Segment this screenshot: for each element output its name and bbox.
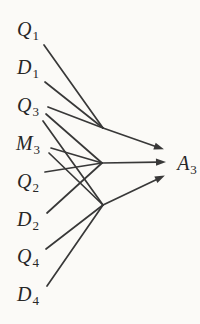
node-subscript-A3: 3 [190, 162, 197, 177]
node-letter-D2: D [17, 208, 31, 230]
arrowhead-icon-hub-top-to-A3 [153, 143, 164, 150]
node-label-Q1: Q1 [17, 19, 39, 39]
node-subscript-M3: 3 [34, 142, 41, 157]
arrowhead-icon-hub-middle-to-A3 [156, 159, 166, 166]
node-letter-D1: D [17, 56, 31, 78]
node-label-D1: D1 [17, 57, 39, 77]
edge-Q1-hub-top [44, 45, 103, 128]
node-letter-Q3: Q [17, 94, 31, 116]
node-label-M3: M3 [16, 133, 40, 153]
arrow-shaft-hub-top-to-A3 [103, 128, 156, 147]
node-label-Q3: Q3 [17, 95, 39, 115]
edge-Q4-hub-bottom [46, 205, 103, 249]
node-letter-A3: A [177, 152, 189, 174]
arrow-shaft-hub-bottom-to-A3 [103, 179, 158, 205]
node-letter-Q2: Q [17, 170, 31, 192]
node-letter-Q4: Q [17, 245, 31, 267]
node-subscript-D2: 2 [32, 218, 39, 233]
edge-Q3-hub-bottom [43, 121, 103, 205]
node-label-D2: D2 [17, 209, 39, 229]
node-subscript-D4: 4 [32, 293, 39, 308]
node-label-Q4: Q4 [17, 246, 39, 266]
node-letter-M3: M [16, 132, 33, 154]
node-subscript-Q2: 2 [32, 180, 39, 195]
node-subscript-Q1: 1 [32, 28, 39, 43]
node-letter-D4: D [17, 283, 31, 305]
node-label-D4: D4 [17, 284, 39, 304]
node-label-A3: A3 [177, 153, 197, 173]
edges-svg [0, 0, 200, 324]
figure-canvas: Q1D1Q3M3Q2D2Q4D4A3 [0, 0, 200, 324]
arrowhead-icon-hub-bottom-to-A3 [154, 176, 165, 184]
node-label-Q2: Q2 [17, 171, 39, 191]
node-subscript-D1: 1 [32, 66, 39, 81]
node-subscript-Q3: 3 [32, 104, 39, 119]
node-letter-Q1: Q [17, 18, 31, 40]
edge-D4-hub-bottom [47, 205, 103, 286]
arrow-shaft-hub-middle-to-A3 [102, 162, 158, 163]
node-subscript-Q4: 4 [32, 255, 39, 270]
